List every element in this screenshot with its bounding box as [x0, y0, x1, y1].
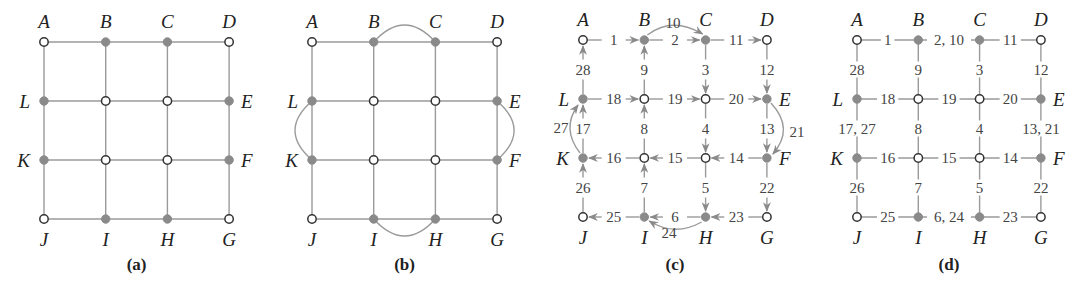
node-label-C: C [699, 9, 712, 30]
node-B-panel-b [370, 38, 378, 46]
node-J-panel-a [40, 215, 48, 223]
node-label-G: G [760, 227, 774, 248]
edge-label-I-H: 6, 24 [934, 209, 965, 225]
node-label-H: H [160, 229, 176, 250]
edge-label-21: 21 [789, 124, 804, 140]
node-E-panel-d [1037, 95, 1045, 103]
node-interior-panel-a [163, 156, 171, 164]
node-H-panel-a [163, 215, 171, 223]
node-interior-panel-a [102, 97, 110, 105]
edge-label-8: 8 [641, 121, 649, 137]
node-J-panel-d [853, 213, 861, 221]
edge-label-16: 16 [606, 150, 622, 166]
node-D-panel-c [763, 36, 771, 44]
node-label-J: J [308, 229, 318, 250]
node-I-panel-a [102, 215, 110, 223]
node-D-panel-b [493, 38, 501, 46]
edge-label-A-L: 28 [850, 62, 865, 78]
added-edge-H-I [374, 219, 436, 236]
node-interior-panel-b [370, 156, 378, 164]
edge-label-K-J: 26 [850, 180, 866, 196]
node-label-L: L [831, 89, 843, 110]
node-label-J: J [853, 227, 863, 248]
node-label-A: A [36, 11, 50, 32]
edge-label-18: 18 [606, 91, 621, 107]
node-A-panel-a [40, 38, 48, 46]
node-label-K: K [284, 150, 299, 171]
node-label-K: K [16, 150, 31, 171]
node-label-E: E [240, 91, 253, 112]
edge-label-B-B3: 9 [915, 62, 923, 78]
node-label-E: E [1052, 89, 1065, 110]
node-interior-panel-b [431, 97, 439, 105]
edge-label-B3-B4: 8 [915, 121, 923, 137]
node-B-panel-c [640, 36, 648, 44]
node-G-panel-c [763, 213, 771, 221]
edge-label-J-I: 25 [880, 209, 895, 225]
edge-label-L-B3: 18 [880, 91, 895, 107]
edge-label-B4-C4: 15 [941, 150, 956, 166]
node-G-panel-a [225, 215, 233, 223]
edge-label-23: 23 [729, 209, 744, 225]
edge-label-17: 17 [576, 121, 592, 137]
node-label-D: D [1033, 9, 1048, 30]
edge-label-C-D: 11 [1003, 32, 1017, 48]
edge-label-B-C: 2, 10 [934, 32, 964, 48]
node-interior-panel-c [701, 154, 709, 162]
node-K-panel-a [40, 156, 48, 164]
node-label-D: D [759, 9, 774, 30]
node-label-I: I [102, 229, 111, 250]
panel-caption-b: (b) [394, 255, 415, 274]
node-label-L: L [18, 91, 30, 112]
edge-label-12: 12 [759, 62, 774, 78]
node-H-panel-c [701, 213, 709, 221]
edge-label-26: 26 [576, 180, 592, 196]
node-label-J: J [40, 229, 50, 250]
node-interior-panel-a [102, 156, 110, 164]
node-A-panel-c [579, 36, 587, 44]
edge-label-28: 28 [576, 62, 591, 78]
node-label-B: B [912, 9, 924, 30]
node-interior-panel-c [701, 95, 709, 103]
node-label-F: F [1052, 148, 1065, 169]
node-E-panel-c [763, 95, 771, 103]
node-F-panel-b [493, 156, 501, 164]
panel-caption-c: (c) [666, 255, 685, 274]
edge-label-D-E: 12 [1033, 62, 1048, 78]
edge-label-15: 15 [667, 150, 682, 166]
node-interior-panel-c [640, 154, 648, 162]
edge-label-19: 19 [667, 91, 682, 107]
node-label-E: E [508, 91, 521, 112]
node-E-panel-a [225, 97, 233, 105]
node-C-panel-b [431, 38, 439, 46]
node-label-F: F [240, 150, 253, 171]
node-label-L: L [286, 91, 298, 112]
node-label-H: H [972, 227, 988, 248]
node-B-panel-d [914, 36, 922, 44]
node-F-panel-c [763, 154, 771, 162]
edge-label-B3-C3: 19 [941, 91, 956, 107]
node-label-A: A [575, 9, 589, 30]
node-K-panel-b [308, 156, 316, 164]
node-label-H: H [698, 227, 714, 248]
node-label-J: J [579, 227, 589, 248]
edge-label-27: 27 [554, 120, 570, 136]
node-label-I: I [370, 229, 379, 250]
node-label-D: D [489, 11, 504, 32]
node-label-C: C [973, 9, 986, 30]
edge-label-C3-E: 20 [1003, 91, 1018, 107]
node-J-panel-b [308, 215, 316, 223]
node-L-panel-a [40, 97, 48, 105]
edge-label-22: 22 [759, 180, 774, 196]
edge-label-E-F: 13, 21 [1022, 121, 1060, 137]
node-L-panel-c [579, 95, 587, 103]
edge-label-C4-F: 14 [1003, 150, 1019, 166]
node-B-panel-a [102, 38, 110, 46]
edge-label-C-C3: 3 [976, 62, 984, 78]
panel-caption-d: (d) [939, 255, 960, 274]
edge-label-24: 24 [661, 225, 677, 241]
node-I-panel-b [370, 215, 378, 223]
node-label-C: C [429, 11, 442, 32]
node-interior-panel-d [914, 154, 922, 162]
edge-label-2: 2 [671, 32, 679, 48]
